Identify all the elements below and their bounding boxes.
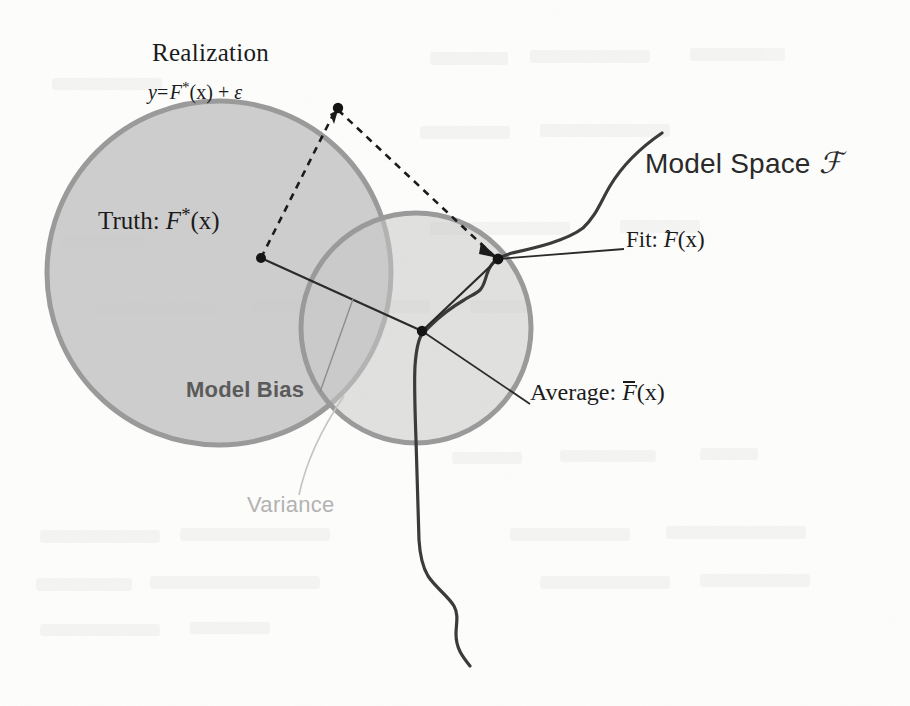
- formula-arg: (x): [190, 81, 213, 103]
- diagram-svg: [0, 0, 910, 706]
- formula-plus: +: [218, 81, 229, 103]
- truth-star: *: [181, 204, 190, 225]
- formula-epsilon: ε: [234, 81, 242, 103]
- truth-point: [256, 253, 266, 263]
- fit-label: Fit: ˆF(x): [626, 228, 705, 252]
- average-label: Average: F(x): [530, 380, 665, 405]
- model-space-symbol: ℱ: [819, 147, 842, 179]
- fit-arg: (x): [678, 227, 705, 252]
- average-overbar: [623, 381, 635, 383]
- truth-arg: (x): [191, 207, 220, 234]
- realization-label: Realization: [152, 40, 269, 66]
- average-arg: (x): [637, 379, 665, 405]
- truth-F: F: [166, 207, 181, 234]
- variance-label: Variance: [247, 493, 335, 516]
- fit-F-accented: ˆF: [664, 228, 678, 252]
- figure-canvas: Realization y= F*(x) + ε Truth: F*(x) Mo…: [0, 0, 910, 706]
- average-point: [417, 326, 427, 336]
- formula-y: y: [148, 81, 157, 103]
- model-space-prefix: Model Space: [645, 148, 811, 179]
- formula-star: *: [182, 79, 190, 95]
- model-bias-label: Model Bias: [186, 378, 304, 401]
- truth-prefix: Truth:: [98, 207, 160, 234]
- fit-point: [493, 254, 504, 265]
- fit-prefix: Fit:: [626, 227, 658, 252]
- truth-label: Truth: F*(x): [98, 205, 220, 235]
- average-prefix: Average:: [530, 379, 616, 405]
- formula-F: F: [170, 81, 182, 103]
- realization-point: [333, 103, 343, 113]
- average-F-accented: F: [622, 380, 637, 405]
- formula-equals: =: [157, 81, 168, 103]
- realization-formula: y= F*(x) + ε: [148, 80, 242, 103]
- model-space-label: Model Space ℱ: [645, 148, 842, 179]
- fit-accent: ˆ: [665, 228, 671, 246]
